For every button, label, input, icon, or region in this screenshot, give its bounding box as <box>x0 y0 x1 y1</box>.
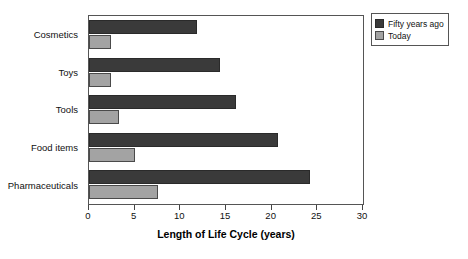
bar-chart: Cosmetics Toys Tools Food items Pharmace… <box>0 0 468 259</box>
category-label-text: Toys <box>58 67 78 78</box>
x-axis-tick-label: 10 <box>159 210 199 221</box>
bar-group-toys <box>89 54 363 92</box>
category-label-cosmetics: Cosmetics <box>0 16 84 54</box>
x-axis-title: Length of Life Cycle (years) <box>88 228 364 240</box>
x-axis-tick-label: 25 <box>296 210 336 221</box>
legend-label: Fifty years ago <box>388 19 444 29</box>
bar-tools-today <box>89 110 119 124</box>
category-label-text: Cosmetics <box>34 29 78 40</box>
bar-cosmetics-fifty-years-ago <box>89 20 197 34</box>
legend-label: Today <box>388 31 411 41</box>
bar-pharmaceuticals-today <box>89 185 158 199</box>
legend-item-today: Today <box>375 30 444 41</box>
bar-group-cosmetics <box>89 16 363 54</box>
bar-toys-today <box>89 73 111 87</box>
legend: Fifty years ago Today <box>371 13 449 46</box>
legend-swatch-icon <box>375 31 384 40</box>
bar-cosmetics-today <box>89 35 111 49</box>
category-label-text: Pharmaceuticals <box>8 180 78 191</box>
x-axis-tick-label: 15 <box>205 210 245 221</box>
category-label-text: Tools <box>56 104 78 115</box>
category-label-tools: Tools <box>0 91 84 129</box>
category-label-toys: Toys <box>0 54 84 92</box>
x-axis-tick-label: 30 <box>342 210 382 221</box>
bar-food-items-fifty-years-ago <box>89 133 278 147</box>
category-axis-labels: Cosmetics Toys Tools Food items Pharmace… <box>0 16 84 204</box>
bar-food-items-today <box>89 148 135 162</box>
bars-container <box>89 16 363 204</box>
legend-swatch-icon <box>375 19 384 28</box>
legend-item-fifty-years-ago: Fifty years ago <box>375 18 444 29</box>
bar-toys-fifty-years-ago <box>89 58 220 72</box>
category-label-text: Food items <box>31 142 78 153</box>
x-axis-tick-label: 0 <box>68 210 108 221</box>
x-axis-tick-label: 5 <box>114 210 154 221</box>
bar-group-food-items <box>89 129 363 167</box>
x-axis-tick-label: 20 <box>251 210 291 221</box>
category-label-pharmaceuticals: Pharmaceuticals <box>0 166 84 204</box>
bar-tools-fifty-years-ago <box>89 95 236 109</box>
x-axis-tick-labels: 051015202530 <box>0 210 468 224</box>
bar-pharmaceuticals-fifty-years-ago <box>89 170 310 184</box>
category-label-food-items: Food items <box>0 129 84 167</box>
bar-group-tools <box>89 91 363 129</box>
bar-group-pharmaceuticals <box>89 166 363 204</box>
